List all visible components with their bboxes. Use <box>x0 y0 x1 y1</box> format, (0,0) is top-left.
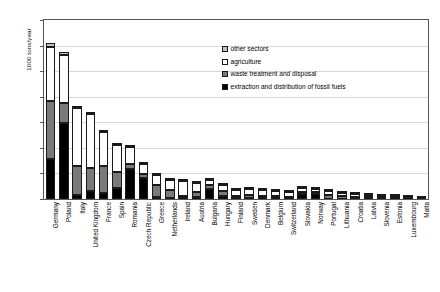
bar-segment <box>72 108 82 167</box>
bar-segment <box>46 47 56 101</box>
bar-greece <box>152 174 162 199</box>
bar-segment <box>350 194 360 197</box>
bar-segment <box>165 180 175 190</box>
x-axis-label-france: France <box>106 202 112 222</box>
bar-segment <box>165 178 175 180</box>
legend-label: agriculture <box>231 59 262 66</box>
bar-segment <box>364 193 374 195</box>
bar-segment <box>284 192 294 196</box>
legend-swatch-icon <box>222 46 228 52</box>
bar-segment <box>311 187 321 189</box>
bar-segment <box>258 190 268 196</box>
bar-romania <box>125 146 135 199</box>
bar-segment <box>324 191 334 195</box>
bar-segment <box>46 101 56 159</box>
bar-poland <box>59 52 69 199</box>
x-axis-label-austria: Austria <box>199 202 205 222</box>
bar-netherlands <box>165 179 175 199</box>
bar-segment <box>284 197 294 199</box>
x-axis-label-greece: Greece <box>159 202 165 223</box>
bar-segment <box>297 194 307 199</box>
x-axis-label-finland: Finland <box>238 202 244 223</box>
bar-segment <box>350 192 360 194</box>
bar-segment <box>364 195 374 198</box>
bar-segment <box>192 181 202 183</box>
x-axis-label-sweden: Sweden <box>252 202 258 225</box>
bar-segment <box>72 166 82 194</box>
bar-segment <box>244 187 254 189</box>
bar-segment <box>244 189 254 195</box>
bar-segment <box>192 192 202 196</box>
bar-germany <box>46 43 56 199</box>
bar-segment <box>86 114 96 168</box>
bar-segment <box>72 195 82 199</box>
bar-segment <box>218 196 228 199</box>
bar-segment <box>192 197 202 199</box>
bar-segment <box>165 190 175 198</box>
bar-segment <box>46 43 56 47</box>
bar-segment <box>112 172 122 188</box>
x-axis-label-united-kingdom: United Kingdom <box>93 202 99 247</box>
bar-ireland <box>178 180 188 199</box>
bar-belgium <box>271 190 281 199</box>
bar-segment <box>271 191 281 196</box>
bar-segment <box>59 52 69 55</box>
bar-segment <box>99 193 109 199</box>
bar-segment <box>178 179 188 181</box>
bar-segment <box>403 195 413 197</box>
bar-lithuania <box>337 192 347 199</box>
bar-segment <box>311 194 321 199</box>
bar-segment <box>258 196 268 198</box>
bar-segment <box>244 195 254 198</box>
bar-switzerland <box>284 192 294 199</box>
bar-segment <box>231 188 241 190</box>
bar-estonia <box>390 196 400 199</box>
bar-hungary <box>218 185 228 199</box>
x-axis-label-ireland: Ireland <box>185 202 191 222</box>
bar-segment <box>377 194 387 196</box>
x-axis-label-croatia: Croatia <box>358 202 364 223</box>
bar-segment <box>231 196 241 198</box>
bar-segment <box>311 189 321 192</box>
bar-segment <box>337 193 347 197</box>
legend-item: agriculture <box>222 56 346 69</box>
x-axis-label-switzerland: Switzerland <box>291 202 297 235</box>
bar-segment <box>46 159 56 199</box>
bar-france <box>99 131 109 199</box>
bar-segment <box>139 174 149 178</box>
bar-segment <box>72 106 82 108</box>
bar-segment <box>284 190 294 192</box>
x-axis-label-italy: Italy <box>80 202 86 214</box>
bar-slovakia <box>297 188 307 199</box>
bar-segment <box>139 178 149 199</box>
bar-segment <box>218 183 228 185</box>
bar-segment <box>390 194 400 196</box>
bar-segment <box>417 196 427 198</box>
bar-luxembourg <box>403 197 413 199</box>
x-axis-label-bulgaria: Bulgaria <box>212 202 218 225</box>
bar-segment <box>139 162 149 164</box>
legend-label: waste treatment and disposal <box>231 71 317 78</box>
bar-austria <box>192 182 202 199</box>
x-axis-label-germany: Germany <box>53 202 59 228</box>
bar-croatia <box>350 194 360 199</box>
x-axis-label-romania: Romania <box>132 202 138 228</box>
bar-segment <box>218 191 228 196</box>
bar-segment <box>297 186 307 188</box>
legend-swatch-icon <box>222 84 228 90</box>
x-axis-label-belgium: Belgium <box>278 202 284 225</box>
bar-segment <box>59 123 69 199</box>
bar-segment <box>125 164 135 169</box>
legend-item: extraction and distribution of fossil fu… <box>222 81 346 94</box>
x-axis-label-malta: Malta <box>424 202 430 218</box>
bar-malta <box>417 198 427 199</box>
x-axis-label-hungary: Hungary <box>225 202 231 226</box>
bar-segment <box>139 164 149 174</box>
bar-segment <box>112 145 122 172</box>
bar-portugal <box>324 191 334 199</box>
x-axis-label-latvia: Latvia <box>371 202 377 219</box>
x-axis-label-spain: Spain <box>119 202 125 218</box>
x-axis-label-poland: Poland <box>66 202 72 222</box>
x-axis-label-slovenia: Slovenia <box>384 202 390 227</box>
bar-segment <box>125 145 135 147</box>
